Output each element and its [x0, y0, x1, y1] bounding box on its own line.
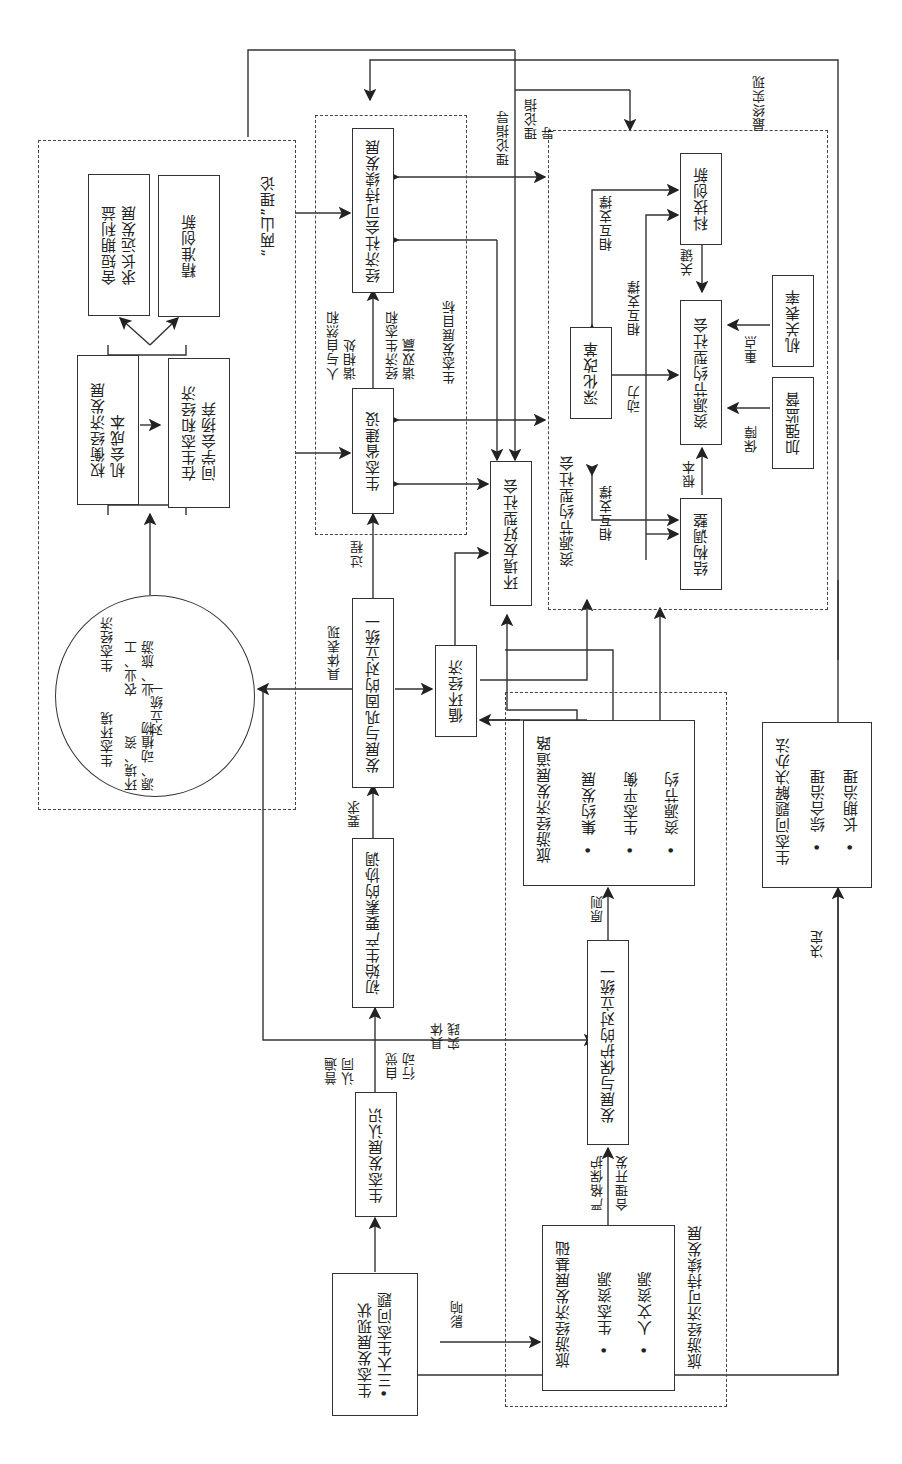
label-principle: 原则	[588, 895, 606, 923]
node-choose-between: 在生态和经济间学会扬弃	[168, 358, 230, 508]
node-eco-recognition: 生态发展认识	[355, 1092, 397, 1217]
label-focus: 重点	[742, 335, 760, 363]
label-common-recognition: 普遍认同	[322, 1045, 357, 1085]
circle-bottom-items: 环境、资源、动植物	[122, 711, 157, 791]
label-human-nature-harmony: 人与自然和谐相处	[324, 310, 359, 380]
node-initial-factor-coordination: 初始生产要素的协调	[352, 838, 394, 1008]
label-theory-guidance-1: 理论指导	[494, 110, 512, 166]
label-final-realization: 最终实现	[750, 75, 768, 131]
circle-bottom-title: 生态环境	[98, 711, 116, 767]
node-dev-consolidation-unity: 发展与巩固的对立统一	[352, 598, 394, 788]
label-decide: 决定	[808, 930, 826, 958]
label-strict-protection: 严格保护	[588, 1155, 606, 1211]
label-rational-development: 合理开发	[613, 1155, 631, 1211]
label-econ-eco-win: 经济生态和谐双赢	[383, 310, 418, 380]
label-root: 根本	[680, 460, 698, 488]
node-tourism-base: 旅游经济发展基础 生态资源 人文资源	[542, 1225, 675, 1391]
label-eco-dev-goal: 生态发展目标	[440, 300, 458, 384]
label-two-mountains: “两山”理论	[258, 175, 278, 257]
node-eco-province-building: 生态省建设	[352, 388, 394, 514]
node-deepen-reform: 深化改革	[570, 327, 612, 419]
node-precise-innovation: 精准创新	[158, 175, 220, 317]
label-concrete-practice: 具体实践	[428, 1010, 463, 1050]
node-sacrifice-short-term: 舍短期利益求长远发展	[88, 174, 150, 316]
node-structural-adjustment: 结构调整	[680, 498, 722, 590]
node-env-friendly-society: 环境友好型社会	[490, 461, 532, 606]
label-tourism-sustainable: 旅游经济可持续发展	[685, 1225, 705, 1369]
node-resource-saving-society: 资源节约型社会	[680, 300, 722, 445]
circle-top-title: 生态经济	[98, 616, 116, 672]
node-dev-protection-unity: 发展与保护的对立统一	[587, 940, 629, 1145]
label-key: 关键	[678, 248, 696, 276]
eco-unity-circle: 生态经济 农业、工业、旅游 对立统一 生态环境 环境、资源、动植物	[55, 595, 255, 797]
node-tourism-path: 旅游经济发展道路 集约发展 生态平衡 资源节约	[523, 720, 695, 886]
node-tech-innovation: 科技创新	[680, 153, 722, 245]
node-strengthen-supervision: 加强监督	[772, 377, 814, 469]
label-mutual-support-2: 相互支撑	[625, 280, 643, 336]
label-conscious-action: 自觉行动	[383, 1040, 418, 1080]
node-eco-solution: 生态问题解决办法 综合治理 长期治理	[762, 722, 872, 888]
label-mutual-support-1: 相互支撑	[597, 195, 615, 251]
node-eco-status: 生态发展现状•三大生态问题	[332, 1273, 418, 1416]
label-theory-guidance-2: 理论指导	[522, 95, 557, 140]
label-resource-saving-group: 资源节约型社会	[557, 455, 577, 567]
label-mutual-support-3: 相互支撑	[597, 485, 615, 541]
node-official-example: 机关表率	[772, 275, 814, 367]
label-guarantee: 保障	[742, 425, 760, 453]
label-process: 过程	[348, 540, 366, 568]
label-influence: 影响	[448, 1300, 466, 1328]
node-circular-economy: 循环经济	[435, 645, 477, 737]
node-econ-society-sustainable: 经济社会可持续发展	[352, 128, 394, 293]
node-weigh-opportunity-cost: 权衡经济发展机会成本	[77, 355, 139, 505]
label-momentum: 动力	[625, 385, 643, 413]
label-requirement: 要求	[345, 800, 363, 828]
label-concrete-manifestation: 具体表现	[325, 625, 343, 681]
